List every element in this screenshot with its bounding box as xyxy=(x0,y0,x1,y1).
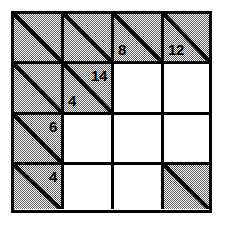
kakuro-puzzle-grid: 8 12 14 4 xyxy=(11,11,212,213)
grid-cell-r2c1[interactable] xyxy=(14,64,64,115)
grid-cell-r1c4[interactable]: 12 xyxy=(164,14,209,64)
grid-cell-r1c2[interactable] xyxy=(64,14,114,64)
grid-cell-r3c2[interactable] xyxy=(64,115,114,165)
grid-cell-r2c3[interactable] xyxy=(114,64,164,115)
grid-container: 8 12 14 4 xyxy=(14,14,209,210)
diagonal-divider-icon xyxy=(14,14,64,64)
across-clue-r1c3: 8 xyxy=(118,42,126,57)
grid-cell-r3c4[interactable] xyxy=(164,115,209,165)
down-clue-r3c1: 6 xyxy=(49,119,57,134)
grid-cell-r4c2[interactable] xyxy=(64,165,114,209)
down-clue-r4c1: 4 xyxy=(49,169,57,184)
grid-cell-r3c1[interactable]: 6 xyxy=(14,115,64,165)
grid-cell-r3c3[interactable] xyxy=(114,115,164,165)
grid-cell-r4c3[interactable] xyxy=(114,165,164,209)
across-clue-r2c2: 4 xyxy=(68,93,76,108)
grid-cell-r1c1[interactable] xyxy=(14,14,64,64)
diagonal-divider-icon xyxy=(64,14,114,64)
down-clue-r2c2: 14 xyxy=(91,68,107,83)
grid-cell-r1c3[interactable]: 8 xyxy=(114,14,164,64)
grid-cell-r4c4[interactable] xyxy=(164,165,209,209)
across-clue-r1c4: 12 xyxy=(168,42,184,57)
grid-cell-r2c4[interactable] xyxy=(164,64,209,115)
grid-cell-r4c1[interactable]: 4 xyxy=(14,165,64,209)
diagonal-divider-icon xyxy=(14,64,64,115)
diagonal-divider-icon xyxy=(164,165,209,209)
grid-cell-r2c2[interactable]: 14 4 xyxy=(64,64,114,115)
